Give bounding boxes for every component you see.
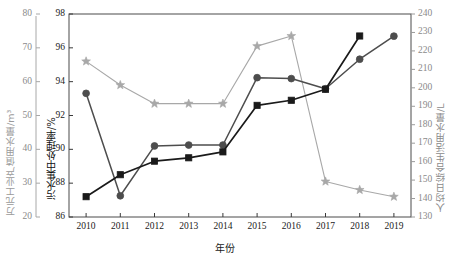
series-1-star [82, 31, 399, 200]
right-tick-210: 210 [418, 63, 444, 73]
right-tick-150: 150 [418, 174, 444, 184]
right-tick-190: 190 [418, 100, 444, 110]
right-tick-220: 220 [418, 45, 444, 55]
x-tick-2011: 2011 [101, 221, 139, 231]
x-tick-2014: 2014 [204, 221, 242, 231]
right-tick-180: 180 [418, 119, 444, 129]
x-tick-2018: 2018 [341, 221, 379, 231]
left-outer-tick-40: 40 [8, 143, 32, 153]
x-tick-2012: 2012 [136, 221, 174, 231]
left-inner-tick-90: 90 [39, 143, 65, 153]
x-tick-2013: 2013 [170, 221, 208, 231]
left-inner-tick-86: 86 [39, 211, 65, 221]
chart-figure: 万元工业产值用水量/m³ 污水集中处理率/% 人均日综合生活用水量/L 年份 8… [0, 0, 451, 260]
right-tick-140: 140 [418, 193, 444, 203]
right-tick-230: 230 [418, 26, 444, 36]
series-2-circle [83, 33, 398, 199]
series-3-square [83, 33, 363, 200]
right-tick-200: 200 [418, 82, 444, 92]
left-inner-tick-88: 88 [39, 177, 65, 187]
right-tick-170: 170 [418, 137, 444, 147]
left-inner-tick-92: 92 [39, 110, 65, 120]
left-outer-tick-50: 50 [8, 110, 32, 120]
left-inner-tick-94: 94 [39, 76, 65, 86]
x-tick-2010: 2010 [67, 221, 105, 231]
x-tick-2017: 2017 [307, 221, 345, 231]
right-tick-130: 130 [418, 211, 444, 221]
x-tick-2016: 2016 [272, 221, 310, 231]
right-tick-240: 240 [418, 8, 444, 18]
left-outer-tick-70: 70 [8, 42, 32, 52]
left-outer-tick-30: 30 [8, 177, 32, 187]
left-outer-tick-20: 20 [8, 211, 32, 221]
left-outer-tick-60: 60 [8, 76, 32, 86]
x-tick-2015: 2015 [238, 221, 276, 231]
left-inner-tick-98: 98 [39, 8, 65, 18]
right-tick-160: 160 [418, 156, 444, 166]
x-tick-2019: 2019 [375, 221, 413, 231]
left-inner-tick-96: 96 [39, 42, 65, 52]
left-outer-tick-80: 80 [8, 8, 32, 18]
